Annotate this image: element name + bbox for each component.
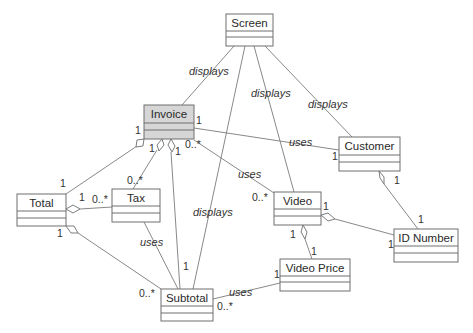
- aggregation-diamond-video-idnumber: [321, 213, 335, 221]
- mult-video-videoprice-videoprice: 1: [311, 245, 317, 257]
- class-name: Invoice: [151, 108, 187, 120]
- edge-invoice-subtotal: [171, 152, 180, 289]
- class-name: Video: [283, 195, 312, 207]
- class-total[interactable]: Total: [17, 194, 66, 226]
- class-name: Tax: [127, 192, 145, 204]
- class-name: Screen: [231, 17, 267, 29]
- class-customer[interactable]: Customer: [339, 137, 400, 171]
- mult-customer-idnumber-customer: 1: [394, 174, 400, 186]
- mult-invoice-subtotal-invoice: 1: [175, 145, 181, 157]
- label-screen-customer: displays: [308, 98, 348, 110]
- edge-tax-subtotal: [144, 222, 178, 289]
- mult-video-idnumber-video: 1: [323, 200, 329, 212]
- edge-invoice-total: [66, 146, 137, 194]
- mult-subtotal-videoprice-subtotal: 0..*: [217, 300, 233, 312]
- aggregation-diamond-video-videoprice: [301, 225, 307, 239]
- mult-invoice-tax-invoice: 1: [149, 142, 155, 154]
- class-name: Video Price: [286, 262, 345, 274]
- mult-video-videoprice-video: 1: [290, 228, 296, 240]
- class-name: ID Number: [398, 232, 454, 244]
- class-video-price[interactable]: Video Price: [280, 259, 350, 291]
- edge-customer-idnumber: [384, 184, 418, 229]
- aggregation-diamond-invoice-tax: [157, 139, 164, 151]
- class-name: Total: [29, 197, 53, 209]
- aggregation-diamond-invoice-total: [136, 139, 144, 147]
- mult-invoice-customer-invoice: 1: [196, 114, 202, 126]
- edge-invoice-video: [194, 140, 274, 193]
- class-name: Customer: [345, 140, 395, 152]
- class-subtotal[interactable]: Subtotal: [161, 289, 213, 321]
- mult-video-idnumber-idnumber: 1: [388, 238, 394, 250]
- mult-total-tax-total: 1: [79, 191, 85, 203]
- uml-class-diagram: Screen Invoice Customer Tax Total Video …: [0, 0, 473, 333]
- mult-invoice-customer-customer: 1: [332, 150, 338, 162]
- class-id-number[interactable]: ID Number: [394, 229, 458, 262]
- label-subtotal-videoprice: uses: [229, 286, 253, 298]
- mult-total-subtotal-total: 1: [57, 227, 63, 239]
- mult-invoice-subtotal-subtotal: 1: [183, 260, 189, 272]
- class-video[interactable]: Video: [274, 192, 321, 225]
- mult-invoice-total-invoice: 1: [135, 124, 141, 136]
- mult-subtotal-videoprice-videoprice: 1: [274, 268, 280, 280]
- aggregation-diamond-customer-idnumber: [379, 171, 384, 184]
- label-invoice-customer: uses: [289, 136, 313, 148]
- class-screen[interactable]: Screen: [226, 14, 273, 46]
- class-tax[interactable]: Tax: [112, 189, 160, 222]
- mult-customer-idnumber-idnumber: 1: [418, 213, 424, 225]
- label-invoice-video: uses: [238, 168, 262, 180]
- label-screen-video: displays: [251, 87, 291, 99]
- mult-invoice-total-total: 1: [60, 177, 66, 189]
- mult-invoice-video-video: 0..*: [252, 191, 268, 203]
- mult-total-subtotal-subtotal: 0..*: [139, 287, 155, 299]
- label-screen-subtotal: displays: [193, 206, 233, 218]
- label-screen-invoice: displays: [189, 65, 229, 77]
- mult-invoice-tax-tax: 0..*: [127, 174, 143, 186]
- aggregation-diamond-total-tax: [66, 205, 80, 213]
- mult-total-tax-tax: 0..*: [92, 193, 108, 205]
- class-invoice[interactable]: Invoice: [144, 105, 194, 139]
- edge-total-tax: [80, 207, 112, 209]
- aggregation-diamond-total-subtotal: [66, 226, 78, 233]
- class-name: Subtotal: [166, 292, 208, 304]
- edge-invoice-customer: [194, 128, 339, 150]
- aggregation-diamond-invoice-subtotal: [168, 139, 175, 152]
- label-tax-subtotal: uses: [140, 236, 164, 248]
- edge-video-idnumber: [335, 219, 394, 235]
- mult-invoice-video-invoice: 0..*: [185, 138, 201, 150]
